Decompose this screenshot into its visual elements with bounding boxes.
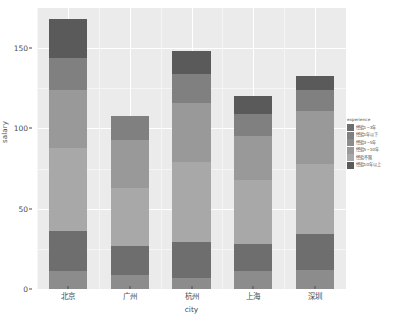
chart-container: salary 050100150 北京广州杭州上海深圳 city experie…: [0, 0, 394, 323]
bar-stack: [296, 75, 334, 289]
y-axis-tick-label: 0: [23, 285, 28, 294]
bar-segment: [49, 148, 87, 231]
legend-item: 经验5~10年: [347, 147, 393, 154]
bar-segment: [49, 90, 87, 148]
gridline-vertical-minor: [161, 8, 162, 289]
bar-segment: [111, 116, 149, 140]
legend-key-swatch: [347, 147, 354, 154]
legend-item: 经验不限: [347, 154, 393, 161]
bar-segment: [111, 140, 149, 188]
legend: experience 经验1~3年经验1年以下经验3~5年经验5~10年经验不限…: [347, 118, 393, 169]
y-axis-tick-label: 50: [18, 204, 28, 213]
legend-item-label: 经验5~10年: [356, 148, 380, 152]
legend-item-label: 经验3~5年: [356, 141, 377, 145]
x-axis-tick-label: 广州: [123, 290, 137, 301]
bar-segment: [49, 58, 87, 90]
legend-item-list: 经验1~3年经验1年以下经验3~5年经验5~10年经验不限经验10年以上: [347, 124, 393, 169]
bar-stack: [49, 19, 87, 289]
bar-segment: [111, 188, 149, 246]
bar-segment: [234, 136, 272, 179]
bar-segment: [111, 246, 149, 275]
legend-key-swatch: [347, 154, 354, 161]
bar-stack: [172, 51, 210, 289]
legend-key-swatch: [347, 124, 354, 131]
legend-item-label: 经验1年以下: [356, 133, 379, 137]
bar-segment: [49, 19, 87, 58]
x-axis-tick-label: 上海: [246, 290, 260, 301]
legend-item-label: 经验1~3年: [356, 126, 377, 130]
x-axis-tick-mark: [253, 286, 254, 289]
gridline-vertical-minor: [37, 8, 38, 289]
gridline-vertical-minor: [222, 8, 223, 289]
bar-segment: [296, 90, 334, 111]
legend-item: 经验3~5年: [347, 139, 393, 146]
x-axis-tick-mark: [191, 286, 192, 289]
bar-segment: [296, 76, 334, 90]
bar-segment: [234, 114, 272, 136]
bar-segment: [234, 180, 272, 244]
gridline-vertical-minor: [99, 8, 100, 289]
y-axis-tick-label: 150: [14, 44, 28, 53]
x-axis-tick-mark: [129, 286, 130, 289]
x-axis-tick-label: 深圳: [308, 290, 322, 301]
legend-key-swatch: [347, 132, 354, 139]
legend-item-label: 经验10年以上: [356, 163, 381, 167]
bar-segment: [172, 162, 210, 242]
legend-title: experience: [347, 118, 393, 123]
x-axis-tick-mark: [67, 286, 68, 289]
bar-segment: [234, 96, 272, 114]
bar-segment: [172, 242, 210, 277]
bar-segment: [172, 74, 210, 103]
y-axis-tick-label: 100: [14, 124, 28, 133]
bar-segment: [296, 234, 334, 269]
x-axis-title: city: [37, 305, 346, 314]
bar-stack: [111, 116, 149, 289]
bar-segment: [296, 164, 334, 235]
legend-item: 经验1~3年: [347, 124, 393, 131]
y-axis-tick-mark: [29, 128, 32, 129]
x-axis-tick-mark: [315, 286, 316, 289]
legend-item: 经验10年以上: [347, 162, 393, 169]
legend-key-swatch: [347, 162, 354, 169]
bar-segment: [296, 111, 334, 164]
bar-stack: [234, 96, 272, 289]
gridline-vertical-minor: [284, 8, 285, 289]
x-axis-tick-label: 北京: [61, 290, 75, 301]
y-axis-tick-mark: [29, 48, 32, 49]
legend-key-swatch: [347, 139, 354, 146]
bar-segment: [172, 51, 210, 73]
plot-panel: [37, 8, 346, 289]
x-axis-tick-label: 杭州: [185, 290, 199, 301]
legend-item-label: 经验不限: [356, 156, 372, 160]
bar-segment: [234, 244, 272, 271]
y-axis-tick-mark: [29, 208, 32, 209]
y-axis-tick-mark: [29, 289, 32, 290]
bar-segment: [172, 103, 210, 162]
legend-item: 经验1年以下: [347, 132, 393, 139]
x-axis-tick-labels: 北京广州杭州上海深圳: [37, 290, 346, 302]
bar-segment: [49, 231, 87, 271]
y-axis-tick-labels: 050100150: [0, 0, 33, 323]
